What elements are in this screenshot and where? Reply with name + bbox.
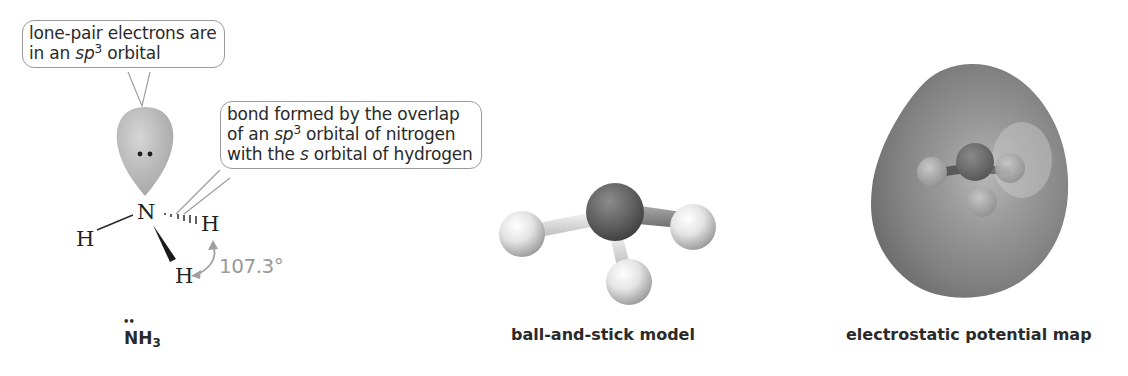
bond-left (97, 215, 133, 230)
atom-hydrogen-bottom: H (175, 264, 193, 288)
lone-pair-dots: •• (123, 316, 134, 327)
hydrogen-ball-bottom (606, 259, 652, 305)
esp-hydrogen-bottom (967, 187, 997, 217)
hydrogen-ball-right (670, 204, 716, 250)
esp-hydrogen-left (917, 157, 947, 187)
lone-pair-dot-2 (148, 152, 153, 157)
bond-angle-label: 107.3° (219, 254, 283, 278)
angle-arrowhead-top (208, 240, 218, 250)
atom-hydrogen-left: H (76, 227, 94, 251)
bond-pointer (176, 170, 230, 214)
ball-and-stick-caption: ball-and-stick model (511, 325, 695, 344)
nh3-structure-graphic (0, 0, 360, 300)
hashed-bond-right (165, 213, 196, 224)
atom-hydrogen-right: H (201, 212, 219, 236)
electrostatic-potential-map-graphic (820, 50, 1128, 330)
esp-nitrogen (956, 143, 994, 181)
nitrogen-ball (586, 183, 644, 241)
sp3-orbital-icon (117, 107, 174, 196)
wedge-bond-bottom (153, 225, 176, 262)
ball-and-stick-model-graphic (470, 120, 770, 340)
lone-pair-pointer (128, 72, 150, 106)
atom-nitrogen: N (137, 200, 155, 224)
esp-map-caption: electrostatic potential map (846, 325, 1092, 344)
formula-nh3: •• NH3 (124, 328, 161, 350)
lone-pair-dot-1 (138, 152, 143, 157)
hydrogen-ball-left (499, 211, 545, 257)
esp-hydrogen-right (995, 153, 1025, 183)
